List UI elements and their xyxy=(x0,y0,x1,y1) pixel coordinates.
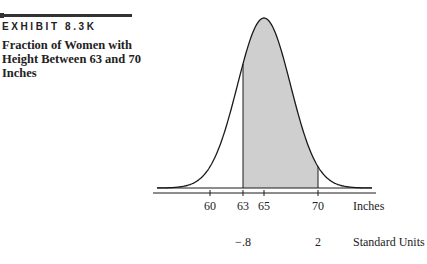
x-axis-tick-label: 63 xyxy=(237,199,249,214)
x-axis-unit-standard: Standard Units xyxy=(353,235,425,250)
x-axis-tick-label: 70 xyxy=(312,199,324,214)
normal-curve-chart xyxy=(0,0,427,264)
x-axis-tick-label: 60 xyxy=(204,199,216,214)
standard-unit-label: 2 xyxy=(315,235,321,250)
x-axis-unit-inches: Inches xyxy=(353,199,384,214)
standard-unit-label: −.8 xyxy=(235,235,251,250)
shaded-area xyxy=(243,18,318,188)
x-axis-tick-label: 65 xyxy=(258,199,270,214)
